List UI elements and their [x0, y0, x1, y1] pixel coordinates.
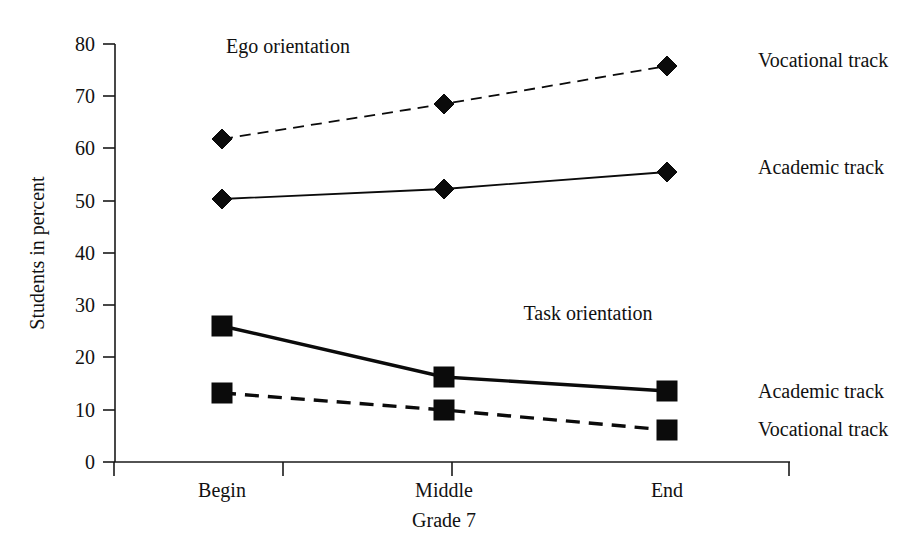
data-point-task-academic-end	[657, 381, 677, 401]
y-tick-label-10: 10	[75, 399, 95, 421]
data-point-task-vocational-begin	[212, 383, 232, 403]
x-axis-title: Grade 7	[412, 509, 476, 531]
data-point-ego-vocational-begin	[212, 129, 232, 149]
data-point-task-vocational-end	[657, 420, 677, 440]
y-tick-label-70: 70	[75, 85, 95, 107]
series-label-ego-vocational: Vocational track	[758, 49, 888, 71]
x-tick-label-middle: Middle	[415, 479, 473, 501]
x-tick-label-end: End	[651, 479, 683, 501]
data-point-task-vocational-middle	[434, 400, 454, 420]
data-point-ego-vocational-end	[657, 56, 677, 76]
series-label-task-vocational: Vocational track	[758, 418, 888, 440]
y-tick-label-80: 80	[75, 33, 95, 55]
data-point-ego-academic-end	[657, 162, 677, 182]
x-tick-label-begin: Begin	[198, 479, 246, 502]
data-point-task-academic-begin	[212, 316, 232, 336]
y-tick-label-50: 50	[75, 190, 95, 212]
data-point-ego-academic-begin	[212, 189, 232, 209]
series-task-vocational	[212, 383, 677, 440]
y-tick-label-20: 20	[75, 346, 95, 368]
series-label-ego-academic: Academic track	[758, 156, 884, 178]
y-tick-label-30: 30	[75, 294, 95, 316]
annotation-ego-orientation: Ego orientation	[226, 35, 350, 58]
series-ego-academic	[212, 162, 677, 209]
y-tick-label-0: 0	[85, 451, 95, 473]
series-task-academic	[212, 316, 677, 401]
annotation-task-orientation: Task orientation	[523, 302, 652, 324]
line-chart-figure: 80 70 60 50 40 30 20 10 0 Begin Middle E…	[0, 0, 921, 550]
series-ego-vocational	[212, 56, 677, 149]
y-tick-label-40: 40	[75, 242, 95, 264]
y-tick-label-60: 60	[75, 137, 95, 159]
data-point-task-academic-middle	[434, 367, 454, 387]
data-point-ego-academic-middle	[434, 179, 454, 199]
data-point-ego-vocational-middle	[434, 94, 454, 114]
series-label-task-academic: Academic track	[758, 380, 884, 402]
chart-page: 80 70 60 50 40 30 20 10 0 Begin Middle E…	[0, 0, 921, 550]
y-axis-title: Students in percent	[26, 176, 49, 330]
